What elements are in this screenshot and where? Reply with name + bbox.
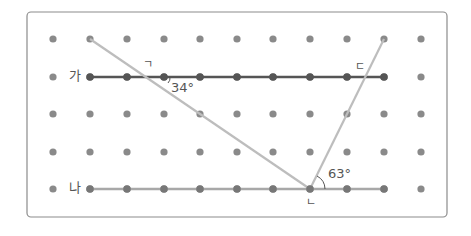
grid-dot: [306, 110, 313, 117]
dot-grid: [49, 35, 424, 192]
line-dot: [269, 185, 277, 193]
line-dot: [196, 185, 204, 193]
grid-dot: [123, 110, 130, 117]
angle-label-63: 63°: [328, 167, 351, 180]
grid-dot: [233, 110, 240, 117]
grid-dot: [123, 35, 130, 42]
angle-label-34: 34°: [171, 81, 194, 94]
grid-dot: [160, 148, 167, 155]
line-dot: [233, 73, 241, 81]
grid-dot: [123, 148, 130, 155]
grid-dot: [49, 148, 56, 155]
geometry-diagram: [0, 0, 471, 236]
angle-arc-63: [317, 176, 325, 189]
line-dot: [380, 185, 388, 193]
grid-dot: [86, 148, 93, 155]
point-label-digeut: ㄷ: [355, 61, 365, 72]
line-dot: [343, 185, 351, 193]
grid-dot: [49, 110, 56, 117]
transversal-left: [90, 39, 310, 189]
line-dot: [123, 185, 131, 193]
line-dot: [196, 73, 204, 81]
line-dot: [123, 73, 131, 81]
grid-dot: [196, 35, 203, 42]
grid-dot: [233, 35, 240, 42]
line-dot: [233, 185, 241, 193]
grid-dot: [417, 148, 424, 155]
grid-dot: [269, 35, 276, 42]
grid-dot: [49, 73, 56, 80]
line-dot: [306, 73, 314, 81]
line-dot: [306, 185, 314, 193]
grid-dot: [417, 110, 424, 117]
line-label-na: 나: [69, 181, 81, 194]
point-label-nieun: ㄴ: [306, 197, 316, 208]
grid-dot: [380, 110, 387, 117]
line-label-ga: 가: [69, 69, 81, 82]
line-dot: [380, 73, 388, 81]
grid-dot: [233, 148, 240, 155]
line-dot: [269, 73, 277, 81]
grid-dot: [343, 148, 350, 155]
line-dot: [160, 185, 168, 193]
point-label-giyeok: ㄱ: [143, 59, 153, 70]
line-dot: [160, 73, 168, 81]
grid-dot: [417, 35, 424, 42]
grid-dot: [417, 185, 424, 192]
line-dot: [343, 73, 351, 81]
grid-dot: [306, 148, 313, 155]
grid-dot: [160, 35, 167, 42]
grid-dot: [86, 110, 93, 117]
grid-dot: [380, 148, 387, 155]
grid-dot: [49, 185, 56, 192]
grid-dot: [269, 148, 276, 155]
grid-dot: [49, 35, 56, 42]
grid-dot: [417, 73, 424, 80]
line-dot: [86, 73, 94, 81]
grid-dot: [306, 35, 313, 42]
grid-dot: [343, 35, 350, 42]
line-dot: [86, 185, 94, 193]
grid-dot: [160, 110, 167, 117]
grid-dot: [269, 110, 276, 117]
grid-dot: [196, 148, 203, 155]
